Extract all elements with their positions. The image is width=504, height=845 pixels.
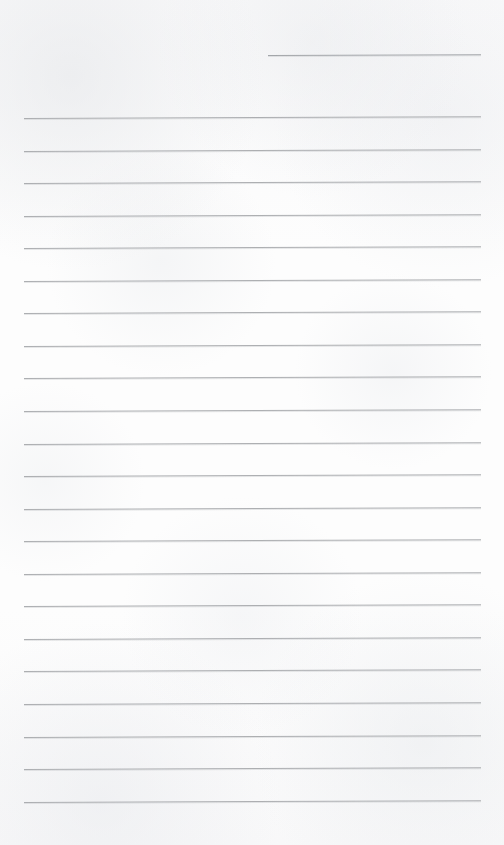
scanned-page: [0, 0, 504, 845]
ruled-line: [24, 181, 481, 184]
ruled-line: [24, 702, 481, 705]
ruled-line: [24, 605, 481, 608]
ruled-line: [24, 572, 481, 575]
ruled-line: [24, 539, 481, 542]
ruled-line: [24, 116, 481, 119]
ruled-line: [24, 507, 481, 510]
ruled-line: [24, 409, 481, 412]
ruled-line: [24, 149, 481, 152]
ruled-line: [24, 279, 481, 282]
ruled-line: [24, 246, 481, 249]
ruled-line: [24, 735, 481, 738]
header-entry-rule: [268, 54, 481, 56]
ruled-line: [24, 344, 481, 347]
paper-texture-overlay: [0, 0, 504, 845]
ruled-line: [24, 474, 481, 477]
ruled-line: [24, 442, 481, 445]
ruled-line: [24, 800, 481, 803]
ruled-line: [24, 637, 481, 640]
ruled-line: [24, 312, 481, 315]
ruled-line: [24, 214, 481, 217]
ruled-line: [24, 767, 481, 770]
ruled-line: [24, 377, 481, 380]
ruled-line: [24, 670, 481, 673]
